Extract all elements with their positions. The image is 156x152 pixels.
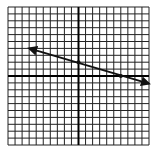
point-marker xyxy=(119,74,123,78)
coordinate-plane xyxy=(0,0,156,152)
point-marker xyxy=(77,60,81,64)
plotted-line xyxy=(29,48,149,83)
line-with-arrows xyxy=(29,48,149,83)
